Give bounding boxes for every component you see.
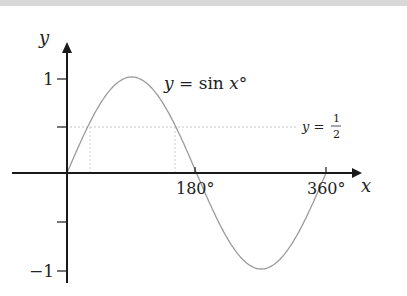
y-tick-label-1: 1 [43,69,54,89]
y-axis-arrow-icon [62,42,72,53]
x-tick-label-360: 360° [307,179,346,198]
svg-text:2: 2 [333,128,340,141]
sine-graph: y x 1 −1 180° 360° y = sin x° y = 1 2 [0,0,407,296]
svg-text:y =: y = [301,119,324,134]
svg-text:1: 1 [333,112,340,125]
half-line-label: y = 1 2 [301,112,341,141]
y-tick-label-neg-1: −1 [29,261,54,281]
x-tick-label-180: 180° [176,179,215,198]
y-axis-label: y [38,27,50,48]
x-axis-label: x [361,175,371,196]
curve-label: y = sin x° [163,73,247,93]
